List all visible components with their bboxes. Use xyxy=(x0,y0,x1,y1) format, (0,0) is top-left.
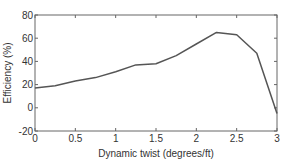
x-tick-label: 1.5 xyxy=(149,133,163,144)
x-tick-label: 2.5 xyxy=(230,133,244,144)
y-tick-label: 60 xyxy=(22,33,34,44)
y-tick-label: 0 xyxy=(27,102,33,113)
x-axis-label: Dynamic twist (degrees/ft) xyxy=(98,148,214,159)
y-tick-label: -20 xyxy=(19,126,34,137)
efficiency-chart: 00.511.522.53-20020406080 Dynamic twist … xyxy=(0,0,292,163)
x-tick-label: 3 xyxy=(274,133,280,144)
x-tick-label: 2 xyxy=(194,133,200,144)
y-tick-label: 40 xyxy=(22,56,34,67)
y-axis-label: Efficiency (%) xyxy=(2,43,13,104)
x-tick-label: 0.5 xyxy=(68,133,82,144)
efficiency-line xyxy=(35,32,277,113)
x-tick-label: 0 xyxy=(32,133,38,144)
plot-frame xyxy=(35,15,277,131)
x-tick-label: 1 xyxy=(113,133,119,144)
y-tick-label: 80 xyxy=(22,10,34,21)
plot-area: 00.511.522.53-20020406080 xyxy=(19,10,281,145)
y-tick-label: 20 xyxy=(22,79,34,90)
